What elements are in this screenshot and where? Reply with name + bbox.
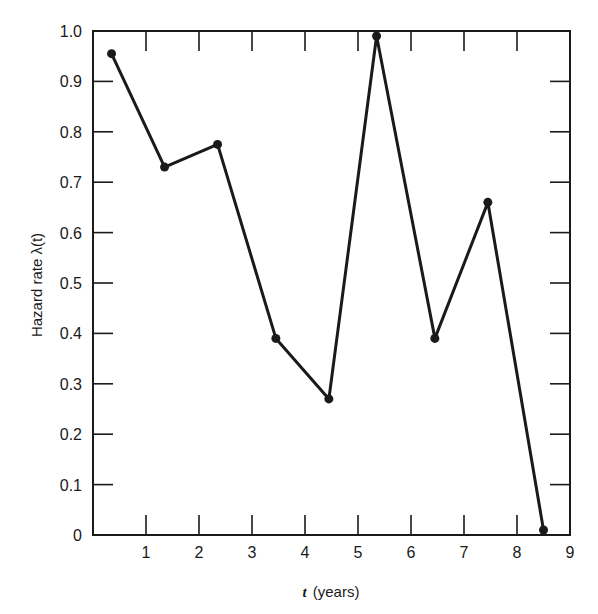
- x-tick-label: 2: [195, 544, 204, 561]
- data-series: [107, 32, 548, 535]
- x-tick-label: 9: [566, 544, 575, 561]
- y-tick-label: 0.1: [60, 477, 82, 494]
- y-tick-label: 0.6: [60, 225, 82, 242]
- data-point-marker: [160, 163, 169, 172]
- data-point-marker: [430, 334, 439, 343]
- x-tick-labels: 123456789: [142, 544, 575, 561]
- x-axis-variable: t: [303, 584, 307, 600]
- y-tick-label: 1.0: [60, 23, 82, 40]
- plot-frame: [93, 31, 570, 535]
- x-axis-unit: (years): [313, 583, 360, 600]
- y-tick-label: 0.4: [60, 325, 82, 342]
- y-tick-label: 0.5: [60, 275, 82, 292]
- data-point-marker: [213, 140, 222, 149]
- line-chart: 00.10.20.30.40.50.60.70.80.91.0 12345678…: [0, 0, 598, 614]
- x-tick-label: 7: [460, 544, 469, 561]
- x-tick-label: 6: [407, 544, 416, 561]
- data-point-marker: [483, 198, 492, 207]
- data-point-marker: [324, 394, 333, 403]
- plot-border: [93, 31, 570, 535]
- y-axis-label-text: Hazard rate λ(t): [28, 233, 45, 337]
- data-point-marker: [372, 32, 381, 41]
- x-tick-label: 4: [301, 544, 310, 561]
- x-tick-label: 5: [354, 544, 363, 561]
- y-tick-label: 0.2: [60, 426, 82, 443]
- x-axis-label: t(years): [303, 583, 360, 601]
- y-tick-label: 0.3: [60, 376, 82, 393]
- data-point-marker: [107, 49, 116, 58]
- axis-ticks: [93, 31, 570, 535]
- y-tick-label: 0.7: [60, 174, 82, 191]
- data-point-marker: [539, 525, 548, 534]
- y-tick-labels: 00.10.20.30.40.50.60.70.80.91.0: [60, 23, 82, 544]
- series-line: [112, 36, 544, 530]
- data-point-marker: [271, 334, 280, 343]
- y-tick-label: 0.8: [60, 124, 82, 141]
- x-tick-label: 1: [142, 544, 151, 561]
- y-tick-label: 0.9: [60, 73, 82, 90]
- x-tick-label: 8: [513, 544, 522, 561]
- y-tick-label: 0: [73, 527, 82, 544]
- x-tick-label: 3: [248, 544, 257, 561]
